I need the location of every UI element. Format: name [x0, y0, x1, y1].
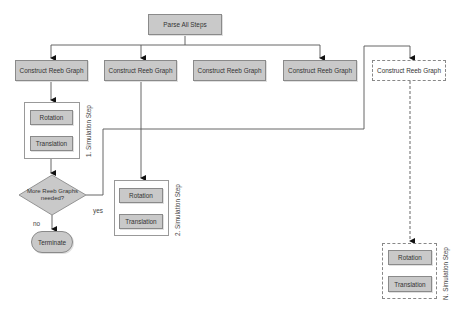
simulation-step-2-label: 2. Simulation Step	[174, 184, 181, 236]
rotation-box-1: Rotation	[30, 110, 73, 125]
edge-label-yes: yes	[93, 207, 103, 214]
decision-label: More Reeb Graphs needed?	[19, 188, 86, 202]
parse-all-steps-box: Parse All Steps	[148, 14, 222, 35]
rotation-box-2: Rotation	[119, 188, 163, 203]
translation-box-1: Translation	[30, 136, 73, 151]
edge-label-no: no	[33, 220, 40, 227]
decision-label-line-2: needed?	[19, 195, 86, 202]
rotation-box-n: Rotation	[388, 250, 432, 265]
construct-reeb-graph-box-2: Construct Reeb Graph	[104, 60, 177, 81]
simulation-step-1-label: 1. Simulation Step	[85, 105, 92, 157]
construct-reeb-graph-box-4: Construct Reeb Graph	[283, 60, 357, 81]
translation-box-2: Translation	[119, 214, 163, 229]
construct-reeb-graph-box-n: Construct Reeb Graph	[372, 60, 446, 81]
construct-reeb-graph-box-1: Construct Reeb Graph	[15, 60, 88, 81]
simulation-step-n-label: N. Simulation Step	[442, 247, 449, 300]
decision-label-line-1: More Reeb Graphs	[19, 188, 86, 195]
translation-box-n: Translation	[388, 276, 432, 292]
terminate-box: Terminate	[31, 231, 73, 253]
construct-reeb-graph-box-3: Construct Reeb Graph	[193, 60, 266, 81]
